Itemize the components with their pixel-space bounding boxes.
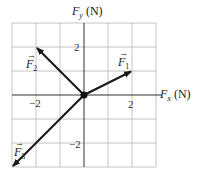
x-axis-label: Fx (N) bbox=[160, 88, 191, 103]
label-f3: →F3 bbox=[14, 146, 25, 161]
y-axis-label: Fy (N) bbox=[72, 5, 103, 20]
label-f2: →F2 bbox=[26, 58, 37, 73]
vector-f2 bbox=[37, 48, 84, 95]
tick-x-neg: −2 bbox=[29, 98, 41, 109]
origin-point bbox=[81, 92, 88, 99]
tick-x-pos: 2 bbox=[128, 99, 134, 110]
label-f1: →F1 bbox=[118, 56, 129, 71]
tick-y-neg: −2 bbox=[69, 139, 81, 150]
tick-y-pos: 2 bbox=[74, 42, 80, 53]
vector-f1 bbox=[84, 72, 131, 96]
